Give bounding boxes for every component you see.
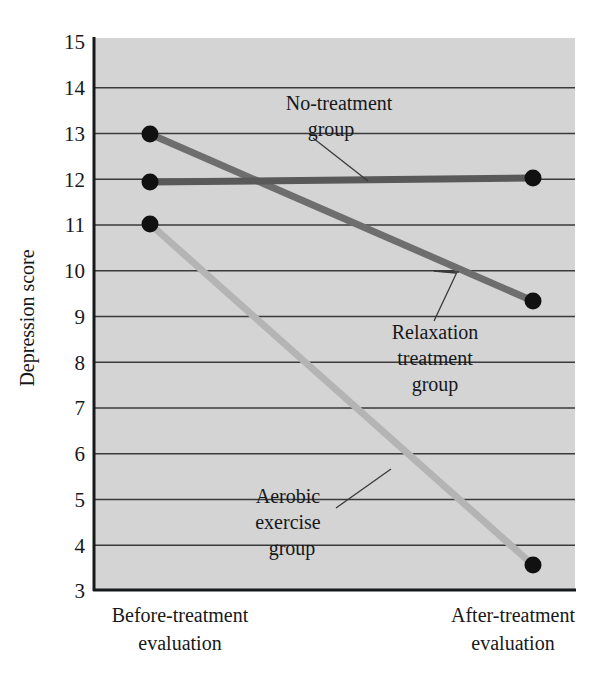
annotation-aerobic-line2: exercise bbox=[255, 511, 321, 533]
y-axis-title: Depression score bbox=[16, 249, 39, 386]
marker-no-treatment-after bbox=[525, 170, 542, 187]
marker-no-treatment-before bbox=[142, 174, 159, 191]
series-line-no-treatment bbox=[150, 178, 533, 182]
x-category-labels: Before-treatment evaluation After-treatm… bbox=[112, 604, 576, 654]
annotation-no-treatment-line2: group bbox=[308, 118, 355, 141]
marker-relaxation-after bbox=[525, 293, 542, 310]
y-tick-8: 8 bbox=[75, 351, 86, 375]
marker-relaxation-before bbox=[142, 126, 159, 143]
x-category-before-line1: Before-treatment bbox=[112, 604, 249, 626]
x-category-before-line2: evaluation bbox=[138, 632, 221, 654]
y-tick-7: 7 bbox=[75, 396, 86, 420]
y-tick-11: 11 bbox=[65, 213, 85, 237]
y-tick-10: 10 bbox=[64, 259, 85, 283]
annotation-no-treatment-line1: No-treatment bbox=[286, 92, 393, 114]
marker-aerobic-after bbox=[525, 557, 542, 574]
y-tick-13: 13 bbox=[64, 122, 85, 146]
figure-container: 15 14 13 12 11 10 9 8 7 6 5 4 3 Depressi… bbox=[0, 0, 616, 673]
y-tick-9: 9 bbox=[75, 305, 86, 329]
y-tick-15: 15 bbox=[64, 30, 85, 54]
y-tick-12: 12 bbox=[64, 168, 85, 192]
y-tick-6: 6 bbox=[75, 442, 86, 466]
x-category-after-line1: After-treatment bbox=[451, 604, 575, 626]
y-tick-4: 4 bbox=[75, 534, 86, 558]
annotation-relaxation-line1: Relaxation bbox=[392, 321, 479, 343]
y-tick-14: 14 bbox=[64, 76, 86, 100]
marker-aerobic-before bbox=[142, 216, 159, 233]
annotation-relaxation-line3: group bbox=[412, 373, 459, 396]
y-tick-3: 3 bbox=[75, 579, 86, 603]
y-tick-5: 5 bbox=[75, 488, 86, 512]
annotation-relaxation-line2: treatment bbox=[397, 347, 473, 369]
depression-score-line-chart: 15 14 13 12 11 10 9 8 7 6 5 4 3 Depressi… bbox=[0, 0, 616, 673]
annotation-aerobic-line3: group bbox=[269, 537, 316, 560]
annotation-aerobic-line1: Aerobic bbox=[256, 485, 321, 507]
y-tick-labels: 15 14 13 12 11 10 9 8 7 6 5 4 3 bbox=[64, 30, 86, 603]
x-category-after-line2: evaluation bbox=[471, 632, 554, 654]
